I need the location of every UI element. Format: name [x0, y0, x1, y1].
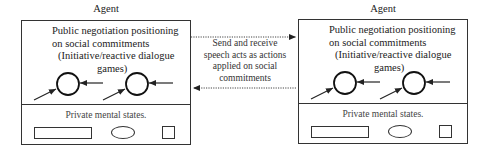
left-dialogue-game-circle-1-icon [34, 73, 103, 100]
right-dialogue-game-circle-2-icon [380, 72, 450, 99]
left-dialogue-game-circle-2-icon [103, 73, 173, 100]
right-dialogue-game-circle-1-icon [311, 72, 380, 99]
diagram-graphics [0, 0, 487, 151]
